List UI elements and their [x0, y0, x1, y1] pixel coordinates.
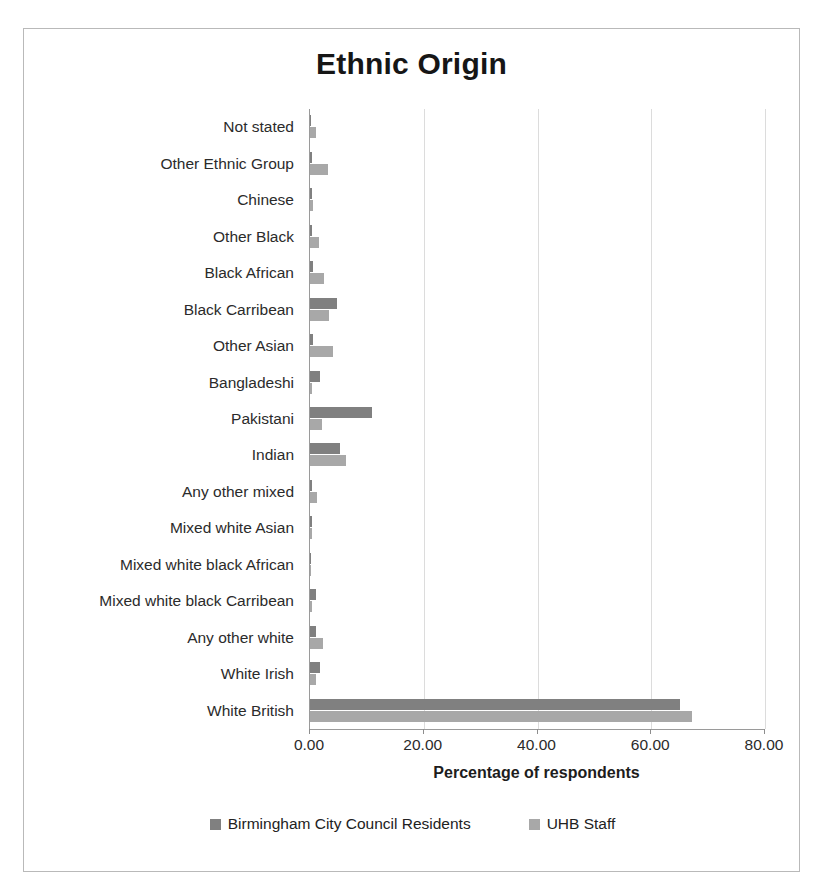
bar — [310, 699, 680, 710]
bar-group — [310, 225, 764, 249]
bar — [310, 127, 316, 138]
bar — [310, 225, 312, 236]
plot-area — [309, 109, 764, 729]
legend-entry[interactable]: Birmingham City Council Residents — [210, 815, 471, 833]
bar — [310, 674, 316, 685]
tick-mark — [650, 729, 651, 734]
bar — [310, 188, 312, 199]
bar — [310, 419, 322, 430]
bar-group — [310, 699, 764, 723]
legend-entry[interactable]: UHB Staff — [529, 815, 616, 833]
bar-group — [310, 152, 764, 176]
value-axis-title: Percentage of respondents — [309, 764, 764, 782]
category-label: Any other mixed — [182, 484, 294, 500]
category-label: Other Black — [213, 229, 294, 245]
bar-group — [310, 407, 764, 431]
category-label: Black Carribean — [184, 302, 294, 318]
bar-group — [310, 553, 764, 577]
bar-group — [310, 115, 764, 139]
bar — [310, 383, 312, 394]
bar-group — [310, 480, 764, 504]
bar — [310, 334, 313, 345]
bar — [310, 237, 319, 248]
tick-label: 80.00 — [745, 736, 784, 754]
bar-group — [310, 298, 764, 322]
bar — [310, 492, 317, 503]
chart-frame: Ethnic Origin Not statedOther Ethnic Gro… — [23, 28, 800, 872]
bar — [310, 407, 372, 418]
legend-label: Birmingham City Council Residents — [228, 815, 471, 833]
tick-label: 60.00 — [631, 736, 670, 754]
bar — [310, 346, 333, 357]
bar — [310, 638, 323, 649]
bar-group — [310, 188, 764, 212]
category-label: Black African — [204, 265, 294, 281]
bar — [310, 371, 320, 382]
tick-mark — [764, 729, 765, 734]
bar — [310, 455, 346, 466]
bar — [310, 626, 316, 637]
category-label: Other Ethnic Group — [160, 156, 294, 172]
bar — [310, 261, 313, 272]
category-label: White British — [207, 703, 294, 719]
category-label: Any other white — [187, 630, 294, 646]
bar-group — [310, 662, 764, 686]
chart-title: Ethnic Origin — [24, 47, 799, 81]
bar — [310, 298, 337, 309]
category-label: Mixed white black African — [120, 557, 294, 573]
bar-group — [310, 626, 764, 650]
bar — [310, 310, 329, 321]
bar — [310, 115, 311, 126]
category-label: Mixed white black Carribean — [99, 593, 294, 609]
tick-mark — [423, 729, 424, 734]
category-label: Mixed white Asian — [170, 520, 294, 536]
bar — [310, 152, 312, 163]
plot-wrapper: Not statedOther Ethnic GroupChineseOther… — [24, 109, 801, 759]
bar-group — [310, 334, 764, 358]
bar-group — [310, 516, 764, 540]
legend-swatch-icon — [529, 819, 540, 830]
bar — [310, 443, 340, 454]
category-label: Other Asian — [213, 338, 294, 354]
legend-swatch-icon — [210, 819, 221, 830]
tick-label: 20.00 — [403, 736, 442, 754]
legend-label: UHB Staff — [547, 815, 616, 833]
bar — [310, 662, 320, 673]
category-label: White Irish — [221, 666, 294, 682]
bar-group — [310, 443, 764, 467]
category-label: Indian — [252, 447, 294, 463]
bar — [310, 273, 324, 284]
gridline — [765, 109, 766, 729]
category-label: Chinese — [237, 192, 294, 208]
value-axis-ticks: 0.0020.0040.0060.0080.00 — [309, 729, 764, 759]
category-label: Not stated — [223, 119, 294, 135]
bar — [310, 553, 311, 564]
bar — [310, 711, 692, 722]
bar — [310, 601, 312, 612]
tick-mark — [309, 729, 310, 734]
bar — [310, 164, 328, 175]
bar — [310, 565, 311, 576]
bar — [310, 516, 312, 527]
bar — [310, 200, 313, 211]
bar-group — [310, 371, 764, 395]
category-axis-labels: Not statedOther Ethnic GroupChineseOther… — [24, 109, 302, 729]
bar — [310, 480, 312, 491]
tick-label: 40.00 — [517, 736, 556, 754]
bar — [310, 589, 316, 600]
bar — [310, 528, 312, 539]
category-label: Pakistani — [231, 411, 294, 427]
chart-legend: Birmingham City Council ResidentsUHB Sta… — [24, 815, 801, 833]
bar-group — [310, 261, 764, 285]
tick-label: 0.00 — [294, 736, 324, 754]
category-label: Bangladeshi — [209, 375, 294, 391]
bar-group — [310, 589, 764, 613]
tick-mark — [537, 729, 538, 734]
